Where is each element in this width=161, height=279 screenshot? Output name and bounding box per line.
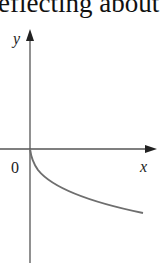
y-axis-label: y <box>11 30 21 48</box>
x-axis-arrow-icon <box>145 145 157 153</box>
chart: y x 0 <box>0 0 161 279</box>
curve <box>30 149 143 213</box>
origin-label: 0 <box>11 159 19 176</box>
y-axis-arrow-icon <box>26 29 34 41</box>
x-axis-label: x <box>139 158 147 175</box>
